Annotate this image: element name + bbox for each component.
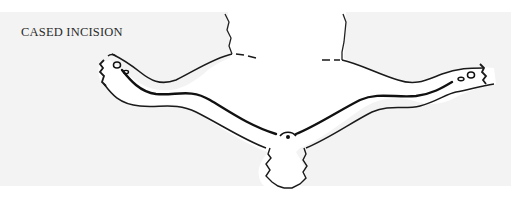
left-paw-top — [108, 55, 116, 57]
vent-dot — [286, 135, 290, 139]
pelt-body-fill — [98, 12, 496, 190]
figure: CASED INCISION — [0, 0, 511, 199]
figure-caption: CASED INCISION — [21, 25, 123, 40]
